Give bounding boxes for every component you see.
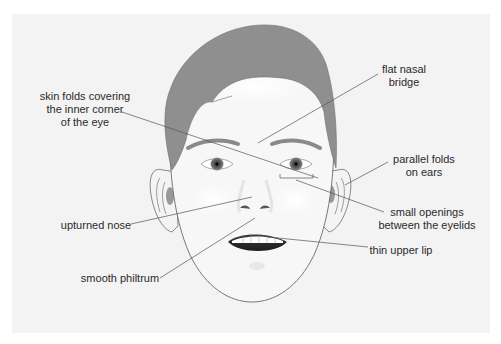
label-nose: upturned nose bbox=[58, 219, 134, 232]
leader-ear-folds bbox=[345, 162, 388, 185]
label-inner-eye-folds: skin folds covering the inner corner of … bbox=[30, 90, 140, 129]
label-ear-folds: parallel folds on ears bbox=[386, 153, 462, 179]
label-philtrum: smooth philtrum bbox=[78, 272, 162, 285]
label-upper-lip: thin upper lip bbox=[366, 244, 436, 257]
label-nasal-bridge: flat nasal bridge bbox=[372, 63, 436, 89]
label-eye-openings: small openings between the eyelids bbox=[372, 206, 482, 232]
